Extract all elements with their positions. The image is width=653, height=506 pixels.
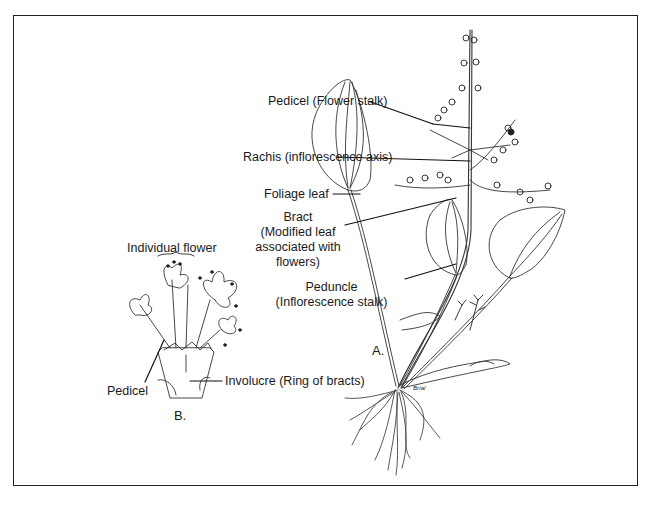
label-individual-flower: Individual flower (127, 241, 217, 256)
artist-signature: Bríal (413, 381, 425, 396)
label-rachis: Rachis (inflorescence axis) (243, 150, 392, 165)
bract-line-3: associated with (252, 240, 344, 255)
label-foliage-leaf: Foliage leaf (264, 187, 329, 202)
bract-line-2: (Modified leaf (252, 225, 344, 240)
label-pedicel-b: Pedicel (107, 384, 148, 399)
bract-line-1: Bract (252, 210, 344, 225)
flower-clusters (407, 35, 551, 203)
label-pedicel-flower-stalk: Pedicel (Flower stalk) (268, 94, 387, 109)
label-peduncle: Peduncle (Inflorescence stalk) (259, 280, 404, 310)
bract-line-4: flowers) (252, 255, 344, 270)
panel-b-label: B. (174, 408, 186, 423)
panel-a-label: A. (372, 343, 384, 358)
label-bract: Bract (Modified leaf associated with flo… (252, 210, 344, 270)
peduncle-line-2: (Inflorescence stalk) (259, 295, 404, 310)
roots (345, 390, 440, 475)
label-involucre: Involucre (Ring of bracts) (225, 374, 365, 389)
peduncle-line-1: Peduncle (259, 280, 404, 295)
